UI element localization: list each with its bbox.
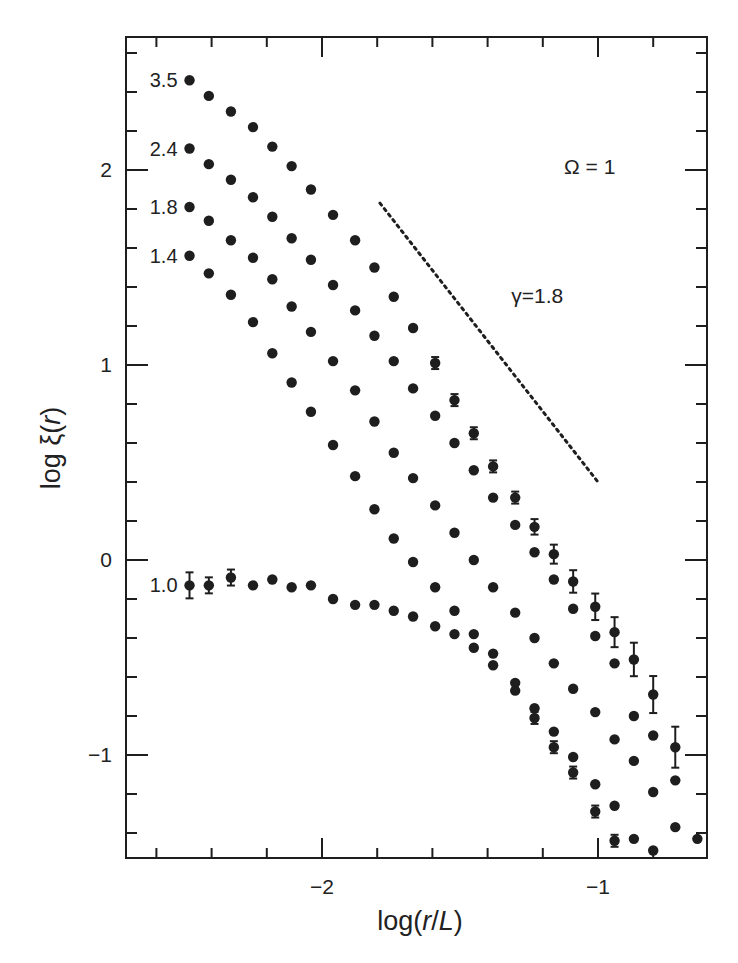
series-1-0 [184,570,619,847]
data-point [369,416,379,426]
series-1-4 [184,251,658,856]
data-point [408,557,418,567]
data-point [306,255,316,265]
data-point [369,600,379,610]
data-point [389,356,399,366]
data-point [267,274,277,284]
data-point [469,629,479,639]
series-3-5 [184,75,680,768]
data-point [488,582,498,592]
data-point [248,122,258,132]
data-point [408,611,418,621]
data-point [629,756,639,766]
data-point [469,428,479,438]
gamma-reference-line [380,203,598,482]
data-point [267,141,277,151]
data-point [609,836,619,846]
data-point [529,547,539,557]
data-point [670,822,680,832]
data-point [670,742,680,752]
data-point [609,627,619,637]
data-points [184,75,702,856]
data-point [629,711,639,721]
data-point [369,504,379,514]
data-point [389,606,399,616]
series-2-4 [184,143,680,785]
data-point [430,500,440,510]
data-point [629,654,639,664]
data-point [449,528,459,538]
plot-frame [126,37,707,858]
data-point [549,726,559,736]
data-point [549,574,559,584]
data-point [529,522,539,532]
data-point [248,580,258,590]
data-point [306,580,316,590]
data-point [204,216,214,226]
data-point [248,253,258,263]
data-point [568,576,578,586]
data-point [469,643,479,653]
data-point [248,317,258,327]
data-point [389,292,399,302]
data-point [226,290,236,300]
data-point [590,602,600,612]
data-point [510,520,520,530]
data-point [488,492,498,502]
data-point [389,448,399,458]
data-point [350,305,360,315]
data-point [408,473,418,483]
data-point [226,235,236,245]
data-point [286,233,296,243]
data-point [267,574,277,584]
data-point [350,471,360,481]
data-point [328,280,338,290]
data-point [510,607,520,617]
data-point [226,106,236,116]
data-point [328,440,338,450]
data-point [408,383,418,393]
series-label: 1.4 [150,245,178,267]
data-point [568,604,578,614]
data-point [286,377,296,387]
data-point [286,161,296,171]
data-point [286,301,296,311]
data-point [328,594,338,604]
data-point [549,742,559,752]
data-point [609,801,619,811]
data-point [449,395,459,405]
data-point [590,806,600,816]
x-tick-label: −2 [310,875,334,898]
data-point [648,730,658,740]
series-label: 1.8 [150,196,178,218]
data-point [549,549,559,559]
data-point [529,633,539,643]
data-point [204,159,214,169]
plot-border [126,37,707,858]
y-axis-title: log ξ(r) [36,407,66,490]
y-tick-label: −1 [88,743,112,766]
data-point [184,143,194,153]
data-point [510,492,520,502]
data-point [590,631,600,641]
x-tick-label: −1 [586,875,610,898]
data-point [350,385,360,395]
data-point [510,685,520,695]
data-point [350,235,360,245]
data-point [328,210,338,220]
y-tick-label: 0 [100,548,112,571]
data-point [204,580,214,590]
data-point [306,327,316,337]
data-point [328,356,338,366]
data-point [184,580,194,590]
data-point [648,689,658,699]
gamma-annotation: γ=1.8 [511,284,563,307]
axis-ticks [126,37,707,858]
data-point [430,582,440,592]
data-point [449,438,459,448]
data-point [488,660,498,670]
data-point [430,358,440,368]
data-point [629,834,639,844]
data-point [549,658,559,668]
y-tick-label: 2 [100,158,112,181]
